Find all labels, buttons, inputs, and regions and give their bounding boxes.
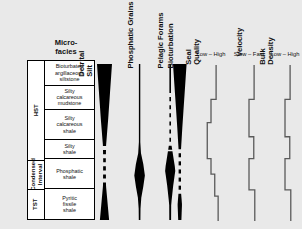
facies-label: Phosphaticshale: [56, 168, 83, 180]
facies-label: Siltycalcareousshale: [56, 115, 82, 134]
systems-tract-label: HST: [33, 104, 40, 116]
table-row: Siltycalcareousmudstone: [45, 86, 94, 111]
column-title-seal-quality: SealQuality: [185, 39, 202, 65]
table-row: Phosphaticshale: [45, 160, 94, 190]
plot-area: Micro- facies HSTCondensedIntervalTSTBio…: [8, 6, 294, 223]
column-title-line: Quality: [194, 39, 202, 65]
column-title-line: Silt: [87, 51, 95, 77]
abundance-shape-segment: [103, 166, 106, 170]
column-title-line: Bioturbation: [167, 23, 176, 68]
abundance-column-bioturbation: [171, 64, 189, 220]
abundance-shape-segment: [173, 64, 187, 145]
log-curve-path: [249, 65, 255, 221]
abundance-shape-segment: [99, 183, 108, 220]
abundance-shape-segment: [179, 161, 181, 165]
log-curve-path: [207, 65, 218, 221]
table-row: Pyriticfissileshale: [45, 189, 94, 218]
abundance-column-detrital-silt: [95, 64, 114, 220]
table-row: Siltyshale: [45, 140, 94, 160]
column-title-line: Pelagic Forams: [157, 12, 166, 68]
systems-tract-label: CondensedInterval: [30, 158, 43, 191]
facies-label: Pyriticfissileshale: [62, 195, 77, 214]
abundance-column-phosphatic-grains: [132, 64, 147, 220]
column-title-detrital-silt: DetritalSilt: [78, 51, 95, 77]
column-title-bioturbation: Bioturbation: [167, 23, 176, 68]
abundance-shape-segment: [179, 153, 181, 157]
abundance-shape-segment: [135, 64, 146, 220]
abundance-shape-segment: [103, 174, 106, 178]
systems-tract-condensed: CondensedInterval: [28, 160, 45, 190]
column-title-bulk-density: BulkDensity: [259, 37, 276, 64]
column-title-line: Velocity: [236, 28, 245, 57]
systems-tract-divider: [28, 160, 45, 161]
abundance-shape-segment: [103, 150, 106, 154]
log-column-bulk-density: [264, 64, 302, 220]
systems-tract-tst: TST: [28, 189, 45, 219]
log-column-seal-quality: [190, 64, 232, 220]
abundance-shape-segment: [103, 158, 106, 162]
column-title-line: Density: [268, 37, 276, 64]
abundance-shape-segment: [179, 145, 182, 149]
abundance-shape-segment: [179, 178, 181, 182]
column-title-line: Phosphatic Grains: [127, 1, 136, 68]
systems-tract-label: TST: [33, 198, 40, 209]
log-curve-path: [285, 65, 291, 221]
column-title-velocity: Velocity: [236, 28, 245, 57]
facies-label: Siltyshale: [63, 143, 76, 155]
table-row: Siltycalcareousshale: [45, 110, 94, 140]
abundance-shape-segment: [179, 194, 182, 195]
abundance-shape-segment: [179, 186, 181, 190]
microfacies-table: HSTCondensedIntervalTSTBioturbatedargill…: [27, 60, 95, 220]
abundance-shape-segment: [179, 169, 181, 173]
column-title-pelagic-forams: Pelagic Forams: [157, 12, 166, 68]
systems-tract-hst: HST: [28, 61, 45, 160]
systems-tract-divider: [28, 189, 45, 190]
column-title-phosphatic-grains: Phosphatic Grains: [127, 1, 136, 68]
abundance-shape-segment: [178, 195, 182, 220]
stratigraphic-column-figure: Micro- facies HSTCondensedIntervalTSTBio…: [0, 0, 302, 229]
facies-label: Siltycalcareousmudstone: [56, 88, 82, 107]
abundance-shape-segment: [102, 142, 106, 146]
abundance-shape-segment: [97, 64, 112, 142]
